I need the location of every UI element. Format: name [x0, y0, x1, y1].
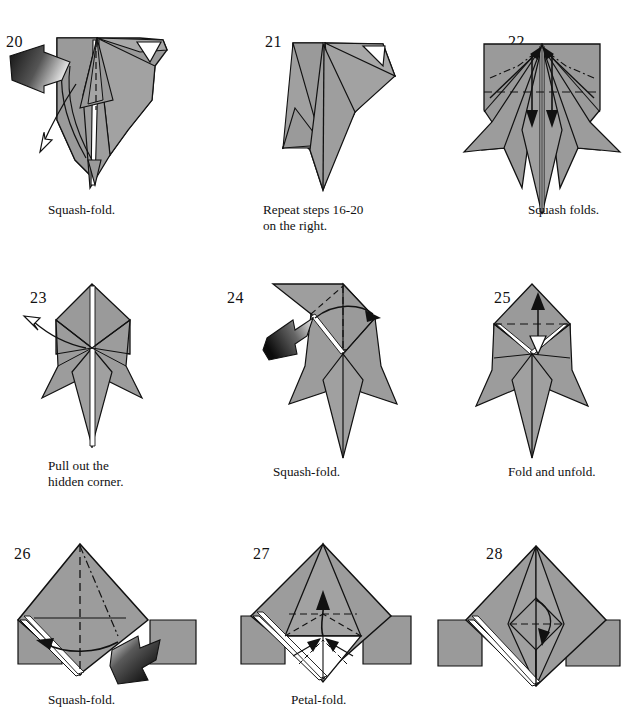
paper-shape-27 [241, 544, 411, 682]
panel-step-22: 22 [430, 0, 625, 250]
panel-step-24: 24 [215, 262, 430, 512]
panel-step-28: 28 [430, 524, 625, 720]
origami-figure-28 [430, 524, 625, 720]
panel-caption: Pull out the hidden corner. [48, 458, 123, 489]
paper-shape-25 [476, 284, 588, 458]
panel-step-27: 27 [215, 524, 430, 720]
panel-step-23: 23 [0, 262, 215, 512]
panel-step-25: 25 [430, 262, 625, 512]
origami-figure-27 [215, 524, 430, 720]
paper-shape-23 [42, 284, 142, 448]
panel-caption: Squash folds. [528, 202, 599, 218]
paper-shape-21 [283, 43, 395, 190]
paper-shape-22 [464, 44, 620, 214]
panel-caption: Squash-fold. [48, 692, 115, 708]
paper-shape-28 [438, 546, 620, 686]
origami-figure-26 [0, 524, 215, 720]
panel-caption: Repeat steps 16-20 on the right. [263, 202, 363, 233]
panel-caption: Petal-fold. [291, 692, 346, 708]
panel-caption: Squash-fold. [48, 202, 115, 218]
paper-shape-20 [57, 38, 167, 188]
panel-step-21: 21 Repeat steps 16-20 on the [215, 0, 430, 250]
panel-caption: Fold and unfold. [508, 464, 596, 480]
paper-shape-24 [273, 284, 397, 458]
push-arrow-icon-24 [263, 318, 313, 360]
origami-diagram-sheet: 20 [0, 0, 625, 720]
panel-caption: Squash-fold. [273, 464, 340, 480]
panel-step-26: 26 [0, 524, 215, 720]
panel-step-20: 20 [0, 0, 215, 250]
